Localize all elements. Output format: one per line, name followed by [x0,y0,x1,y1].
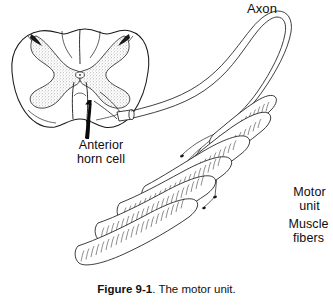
muscle-fibers-label: Muscle fibers [284,218,333,245]
figure-caption: Figure 9-1. The motor unit. [0,283,333,295]
axon-label: Axon [247,2,277,16]
spinal-cord-cross-section [12,29,149,127]
motor-unit-label: Motor unit [286,186,333,213]
anterior-horn-cell-label: Anterior horn cell [42,139,160,166]
figure-motor-unit: Axon Anterior horn cell Motor unit Muscl… [0,0,333,306]
figure-number: Figure 9-1 [97,283,152,295]
figure-caption-text: . The motor unit. [152,283,236,295]
